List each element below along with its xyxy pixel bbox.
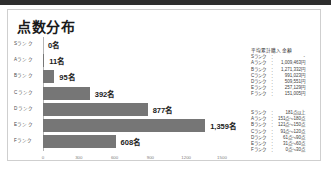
- rank-score-range-rows: Sランク：181点以上Aランク：151点～180点Bランク：121点～150点C…: [251, 110, 305, 153]
- bar-category-label: Cランク: [14, 89, 41, 95]
- bar-row: Dランク877名: [14, 102, 222, 117]
- bar-value-label: 877名: [153, 104, 173, 115]
- bar-value-label: 392名: [95, 88, 115, 99]
- bar-category-label: Dランク: [14, 105, 41, 111]
- x-axis-tick-label: 900: [147, 155, 154, 160]
- info-row-value: 151,005円: [275, 91, 305, 97]
- bar-row: Bランク95名: [14, 69, 222, 84]
- bar-row: Cランク392名: [14, 86, 222, 101]
- bar-value-label: 95名: [59, 71, 74, 82]
- bar-category-label: Fランク: [14, 137, 41, 143]
- x-axis-tick-label: 300: [75, 155, 82, 160]
- bar-category-label: Sランク: [14, 40, 41, 46]
- average-purchase-amount-panel: 平均累計購入金額 Sランク：-Aランク：1,009,463円Bランク：1,271…: [251, 48, 305, 98]
- page-title: 点数分布: [17, 16, 75, 36]
- rank-score-range-panel: Sランク：181点以上Aランク：151点～180点Bランク：121点～150点C…: [251, 110, 305, 153]
- bar-category-label: Bランク: [14, 72, 41, 78]
- bar-fill[interactable]: [43, 54, 44, 67]
- bar-value-label: 11名: [49, 55, 64, 66]
- x-axis-tick-label: 1200: [181, 155, 191, 160]
- bar-fill[interactable]: [43, 70, 54, 83]
- info-row-label: Fランク: [251, 147, 271, 153]
- info-row: Fランク：0点～30点: [251, 147, 305, 153]
- bar-track: 95名: [43, 70, 222, 83]
- bar-row: Eランク1,359名: [14, 118, 222, 133]
- bar-row: Sランク0名: [14, 37, 222, 52]
- bar-fill[interactable]: [43, 135, 116, 148]
- score-distribution-card: 点数分布 Sランク0名Aランク11名Bランク95名Cランク392名Dランク877…: [7, 9, 321, 161]
- bar-track: 608名: [43, 135, 222, 148]
- info-row-label: Fランク: [251, 91, 271, 97]
- x-axis-tick-label: 0: [42, 155, 44, 160]
- info-row: Fランク：151,005円: [251, 91, 305, 97]
- bar-track: 877名: [43, 103, 222, 116]
- bar-category-label: Eランク: [14, 121, 41, 127]
- bar-row: Aランク11名: [14, 53, 222, 68]
- bar-category-label: Aランク: [14, 56, 41, 62]
- bar-row: Fランク608名: [14, 134, 222, 149]
- top-header-band: [0, 0, 331, 5]
- x-axis-tick-label: 1500: [217, 155, 227, 160]
- bar-chart: Sランク0名Aランク11名Bランク95名Cランク392名Dランク877名Eランク…: [14, 37, 222, 153]
- average-purchase-amount-rows: Sランク：-Aランク：1,009,463円Bランク：1,271,332円Cランク…: [251, 54, 305, 97]
- bar-track: 0名: [43, 38, 222, 51]
- bar-value-label: 0名: [48, 39, 59, 50]
- x-axis: 030060090012001500: [43, 155, 223, 165]
- bar-value-label: 1,359名: [210, 120, 236, 131]
- bar-track: 392名: [43, 87, 222, 100]
- bar-fill[interactable]: [43, 119, 205, 132]
- bar-track: 1,359名: [43, 119, 222, 132]
- bar-track: 11名: [43, 54, 222, 67]
- bar-fill[interactable]: [43, 103, 148, 116]
- bar-fill[interactable]: [43, 87, 90, 100]
- x-axis-tick-label: 600: [111, 155, 118, 160]
- info-row-value: 0点～30点: [275, 147, 305, 153]
- bar-value-label: 608名: [121, 136, 141, 147]
